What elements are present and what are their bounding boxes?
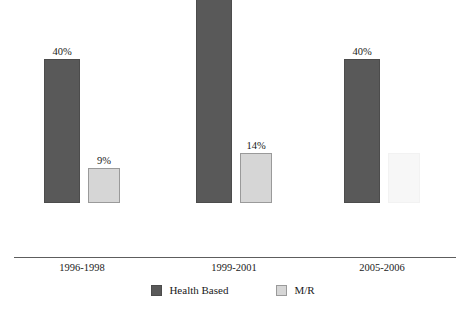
legend-item-health-based: Health Based xyxy=(151,285,228,296)
bar-mr-2005-2006 xyxy=(388,153,420,203)
bar-value-label-health-based-2005-2006: 40% xyxy=(344,47,380,58)
bar-value-label-health-based-1996-1998: 40% xyxy=(44,47,80,58)
bar-health-based-1996-1998 xyxy=(44,59,80,203)
bar-health-based-1999-2001 xyxy=(196,0,232,203)
plot-area: 40% 9% 1996-1998 65% 14% 1999-2001 40% 2… xyxy=(0,0,466,258)
category-label-1996-1998: 1996-1998 xyxy=(32,263,132,274)
legend-item-mr: M/R xyxy=(276,285,314,296)
category-label-1999-2001: 1999-2001 xyxy=(184,263,284,274)
bar-value-label-mr-1996-1998: 9% xyxy=(88,156,120,167)
legend-swatch-mr-icon xyxy=(276,285,287,296)
chart-legend: Health Based M/R xyxy=(0,285,466,296)
bar-value-label-mr-1999-2001: 14% xyxy=(240,141,272,152)
category-label-2005-2006: 2005-2006 xyxy=(332,263,432,274)
legend-swatch-health-based-icon xyxy=(151,285,162,296)
legend-label-health-based: Health Based xyxy=(169,285,228,296)
bar-mr-1999-2001 xyxy=(240,153,272,203)
bar-mr-1996-1998 xyxy=(88,168,120,203)
x-axis-baseline xyxy=(14,257,456,258)
bar-chart: 40% 9% 1996-1998 65% 14% 1999-2001 40% 2… xyxy=(0,0,466,312)
bar-health-based-2005-2006 xyxy=(344,59,380,203)
legend-label-mr: M/R xyxy=(294,285,314,296)
